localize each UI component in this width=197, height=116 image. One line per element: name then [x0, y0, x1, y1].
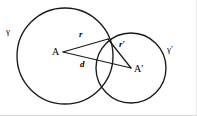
- segment-label-d: d: [80, 60, 85, 69]
- segment-label-r-prime: r′: [119, 40, 125, 49]
- point-label-A-prime: A′: [134, 64, 143, 74]
- circle-label-gamma-prime: γ′: [167, 45, 173, 54]
- figure-canvas: [0, 0, 197, 116]
- point-label-A: A: [52, 47, 59, 57]
- segment-label-r: r: [79, 30, 83, 39]
- geometry-figure: γ γ′ A A′ r r′ d: [0, 0, 197, 116]
- circle-label-gamma: γ: [6, 27, 10, 36]
